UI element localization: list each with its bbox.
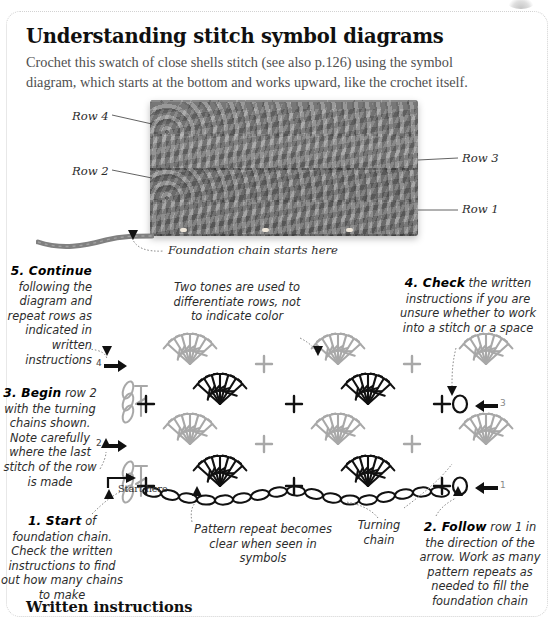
page-corner-shadow xyxy=(508,0,534,9)
swatch-photo: Row 4 Row 2 Row 3 Row 1 Foundation chain… xyxy=(0,96,553,266)
note-step-4-heading: 4. Check xyxy=(405,276,465,290)
note-step-3-body: row 2 with the turning chains shown. Not… xyxy=(3,386,96,489)
note-step-2-heading: 2. Follow xyxy=(424,520,487,534)
photo-label-foundation-chain: Foundation chain starts here xyxy=(168,243,338,257)
intro-paragraph: Crochet this swatch of close shells stit… xyxy=(26,53,496,92)
chart-row-1 xyxy=(138,456,450,494)
row-2-marker-label: 2 xyxy=(96,438,102,448)
photo-label-row-4: Row 4 xyxy=(72,109,109,123)
written-instructions-heading: Written instructions xyxy=(26,598,193,615)
note-step-1-heading: 1. Start xyxy=(28,514,82,528)
note-turning-chain-body: Turning chain xyxy=(358,518,401,547)
symbol-diagram: 5. Continue following the diagram and re… xyxy=(0,264,553,564)
start-here-label: Start here xyxy=(118,483,168,494)
note-step-3-heading: 3. Begin xyxy=(3,386,61,400)
note-step-4: 4. Check the written instructions if you… xyxy=(396,276,540,335)
note-step-2: 2. Follow row 1 in the direction of the … xyxy=(418,520,542,609)
row-3-direction-arrow xyxy=(475,400,498,412)
note-step-3: 3. Begin row 2 with the turning chains s… xyxy=(0,386,100,489)
photo-label-row-2: Row 2 xyxy=(72,164,109,178)
note-step-5-heading: 5. Continue xyxy=(11,264,92,278)
row-1-direction-arrow xyxy=(475,482,498,494)
note-two-tones-body: Two tones are used to differentiate rows… xyxy=(173,280,300,323)
row-3-marker-label: 3 xyxy=(500,398,506,408)
note-two-tones: Two tones are used to differentiate rows… xyxy=(168,280,306,324)
chart-row-3-end-symbol xyxy=(453,396,467,413)
note-step-5: 5. Continue following the diagram and re… xyxy=(0,264,92,367)
note-step-1: 1. Start of foundation chain. Check the … xyxy=(0,514,124,603)
note-pattern-repeat-body: Pattern repeat becomes clear when seen i… xyxy=(194,522,332,565)
row-4-marker-label: 4 xyxy=(96,358,102,368)
chart-foundation-chain xyxy=(142,486,449,506)
photo-label-row-1: Row 1 xyxy=(462,202,499,216)
row-1-marker-label: 1 xyxy=(500,480,506,490)
photo-label-row-3: Row 3 xyxy=(462,151,499,165)
note-step-5-body: following the diagram and repeat rows as… xyxy=(8,280,92,367)
page-title: Understanding stitch symbol diagrams xyxy=(26,26,526,47)
note-turning-chain: Turning chain xyxy=(350,518,408,547)
note-pattern-repeat: Pattern repeat becomes clear when seen i… xyxy=(192,522,334,566)
header: Understanding stitch symbol diagrams Cro… xyxy=(26,26,526,93)
chart-row-3 xyxy=(138,374,450,412)
row-4-direction-arrow xyxy=(104,360,127,372)
